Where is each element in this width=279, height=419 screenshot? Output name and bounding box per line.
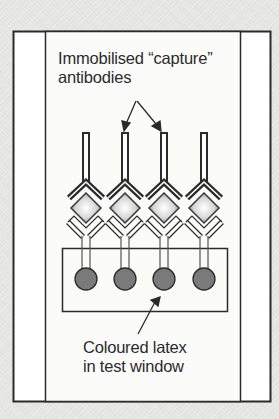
latex-particle xyxy=(153,268,175,290)
coloured-latex-label-line1: Coloured latex xyxy=(83,338,187,357)
coloured-latex-label-line2: in test window xyxy=(83,357,187,376)
coloured-latex-label: Coloured latex in test window xyxy=(83,338,187,376)
latex-particle xyxy=(193,268,215,290)
capture-antibodies-label: Immobilised “capture” antibodies xyxy=(58,49,212,87)
capture-antibodies-label-line1: Immobilised “capture” xyxy=(58,49,212,68)
latex-particle xyxy=(114,268,136,290)
capture-antibodies-label-line2: antibodies xyxy=(58,68,212,87)
latex-particle xyxy=(75,268,97,290)
